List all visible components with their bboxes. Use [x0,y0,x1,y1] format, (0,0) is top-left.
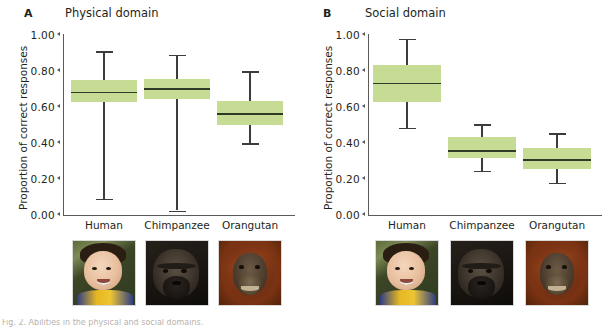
panel-b-category-chimpanzee: Chimpanzee [449,219,514,231]
median-line [448,150,516,152]
median-line [144,88,210,90]
panel-b-letter: B [323,7,331,20]
whisker-cap-lower [399,128,416,130]
whisker-cap-lower [549,183,566,185]
panel-b-photo-human [375,240,439,306]
panel-b-plot-area: 1.00 0.80 0.60 0.40 0.20 0.00 [368,35,602,215]
panel-a: A Physical domain Proportion of correct … [0,0,302,329]
panel-b-box-chimpanzee [448,35,516,215]
panel-a-box-orangutan [217,35,283,215]
panel-a-y-axis-title: Proportion of correct responses [17,46,29,210]
whisker-line [103,51,104,199]
whisker-cap-lower [242,143,259,145]
box-iqr [448,137,516,159]
figure-caption-fragment: Fig. 2. Abilities in the physical and so… [2,319,203,327]
whisker-cap-upper [549,133,566,135]
median-line [523,159,591,161]
panel-b-photo-chimpanzee [450,240,514,306]
panel-b-box-orangutan [523,35,591,215]
panel-b-title: Social domain [365,6,446,20]
whisker-cap-upper [474,124,491,126]
panel-a-category-human: Human [85,219,123,231]
panel-a-photo-orangutan [218,240,282,306]
whisker-cap-upper [242,71,259,73]
whisker-cap-lower [169,211,186,213]
panel-a-letter: A [24,7,33,20]
panel-b-photo-orangutan [525,240,589,306]
whisker-cap-upper [399,39,416,41]
panel-b-category-orangutan: Orangutan [529,219,585,231]
caption-strip: Fig. 2. Abilities in the physical and so… [0,319,605,329]
panel-a-plot-area: 1.00 0.80 0.60 0.40 0.20 0.00 [63,35,295,215]
whisker-cap-upper [96,51,113,53]
panel-a-photo-human [72,240,136,306]
panel-a-x-axis-line [63,215,295,216]
panel-b: B Social domain Proportion of correct re… [301,0,603,329]
panel-a-category-orangutan: Orangutan [222,219,278,231]
figure-root: A Physical domain Proportion of correct … [0,0,605,329]
whisker-cap-lower [96,199,113,201]
panel-a-y-axis-line [63,34,64,216]
panel-b-category-human: Human [388,219,426,231]
whisker-cap-lower [474,171,491,173]
panel-a-title: Physical domain [65,6,159,20]
panel-a-box-human [71,35,137,215]
panel-a-photo-chimpanzee [145,240,209,306]
panel-b-y-axis-line [368,34,369,216]
median-line [71,92,137,94]
panel-b-y-axis-title: Proportion of correct responses [322,46,334,210]
whisker-cap-upper [169,55,186,57]
panel-b-x-axis-line [368,215,602,216]
median-line [373,83,441,85]
panel-a-box-chimpanzee [144,35,210,215]
median-line [217,113,283,115]
panel-a-category-chimpanzee: Chimpanzee [144,219,209,231]
panel-b-box-human [373,35,441,215]
